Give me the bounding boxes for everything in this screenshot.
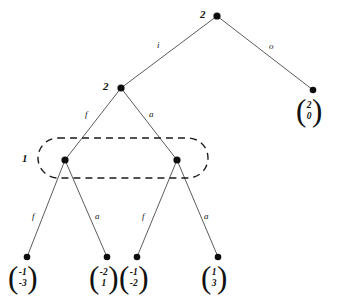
vector-leaf1: ( -1 -3 ) [8,266,38,290]
vector-leaf2: ( -2 1 ) [89,266,119,290]
tree-graphic [0,0,343,307]
edge-root-to-n2 [121,16,217,88]
vector-root-right: ( 2 0 ) [296,99,322,123]
vector-paren-left: ( [296,99,306,123]
vector-paren-right: ) [27,266,37,290]
edge-root-to-n3 [217,16,313,90]
group-label: 1 [22,153,28,164]
vector-paren-left: ( [201,266,211,290]
node-n4[interactable] [61,156,68,163]
edge-label-root-n3: o [269,42,274,51]
vector-bottom-value: 1 [101,278,106,289]
node-root[interactable] [213,12,220,19]
vector-paren-right: ) [138,266,148,290]
vector-top-value: 1 [212,267,217,278]
edge-n2-to-n4 [65,88,121,160]
node-label-root: 2 [200,9,206,20]
edge-label-n4-leaf2: a [95,212,100,221]
diagram-canvas: 2 2 1 i o f a f a f a ( 2 0 ) ( -1 -3 ) … [0,0,343,307]
edge-label-n2-n5: a [149,110,154,119]
node-n2[interactable] [117,84,124,91]
edge-label-n2-n4: f [85,110,88,119]
vector-bottom-value: -2 [130,278,138,289]
vector-paren-left: ( [119,266,129,290]
vector-top-value: -2 [100,267,108,278]
edge-n5-to-leaf4 [177,160,218,257]
vector-leaf3: ( -1 -2 ) [119,266,149,290]
vector-paren-right: ) [108,266,118,290]
edge-label-n5-leaf4: a [204,212,209,221]
edge-n2-to-n5 [121,88,177,160]
vector-values: -1 -3 [18,267,27,289]
edge-n4-to-leaf2 [65,160,107,257]
vector-paren-left: ( [8,266,18,290]
edge-n4-to-leaf1 [27,160,65,257]
edge-label-n4-leaf1: f [32,212,35,221]
vector-top-value: 2 [307,100,312,111]
vector-bottom-value: -3 [19,278,27,289]
vector-paren-right: ) [312,99,322,123]
edge-n5-to-leaf3 [137,160,177,257]
vector-paren-left: ( [89,266,99,290]
vector-top-value: -1 [19,267,27,278]
vector-top-value: -1 [130,267,138,278]
node-n5[interactable] [173,156,180,163]
vector-leaf4: ( 1 3 ) [201,266,227,290]
vector-values: -2 1 [99,267,108,289]
vector-paren-right: ) [217,266,227,290]
edge-label-n5-leaf3: f [142,212,145,221]
vector-values: -1 -2 [129,267,138,289]
vector-bottom-value: 0 [307,111,312,122]
node-label-n2: 2 [103,81,109,92]
vector-bottom-value: 3 [212,278,217,289]
edge-label-root-n2: i [157,41,160,50]
